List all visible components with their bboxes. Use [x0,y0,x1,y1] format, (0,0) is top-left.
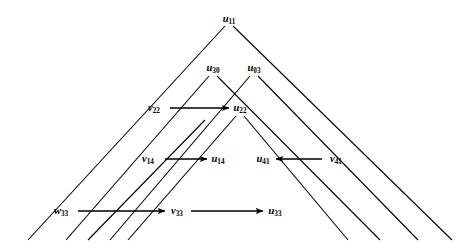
node-label-v41: v41 [330,154,342,165]
lattice-svg [0,0,468,248]
node-subscript-v41: 41 [335,158,342,166]
arrow-group [78,108,322,211]
node-label-u22: u22 [233,103,246,114]
node-label-u03: u03 [247,63,260,74]
node-subscript-w33: 33 [61,210,68,218]
chevron-line-apex-right-outer [233,26,452,240]
node-label-v33: v33 [171,206,183,217]
node-subscript-u22: 22 [239,107,246,115]
node-subscript-v22: 22 [153,107,160,115]
chevron-line-group [28,26,452,240]
chevron-line-inner-left-extra [88,120,205,240]
chevron-line-u22-right [244,116,348,240]
node-label-u11: u11 [223,14,236,25]
node-subscript-u14: 14 [217,158,224,166]
node-label-u41: u41 [256,154,269,165]
node-label-v22: v22 [148,103,160,114]
diagram-canvas: u11u30u03v22u22v14u14u41v41w33v33u33 [0,0,468,248]
node-subscript-v14: 14 [147,158,154,166]
node-label-v14: v14 [142,154,154,165]
node-subscript-u41: 41 [262,158,269,166]
node-label-w33: w33 [54,206,68,217]
node-base-u11: u [223,13,229,24]
node-label-u30: u30 [206,63,219,74]
node-base-w33: w [54,205,61,216]
node-subscript-u11: 11 [229,18,236,26]
node-subscript-u03: 03 [253,67,260,75]
chevron-line-u30-left [66,76,209,240]
node-label-u14: u14 [211,154,224,165]
node-subscript-u33: 33 [274,210,281,218]
node-subscript-v33: 33 [176,210,183,218]
chevron-line-u30-right [217,76,380,240]
node-label-u33: u33 [268,206,281,217]
node-subscript-u30: 30 [212,67,219,75]
chevron-line-u22-left [128,116,236,240]
